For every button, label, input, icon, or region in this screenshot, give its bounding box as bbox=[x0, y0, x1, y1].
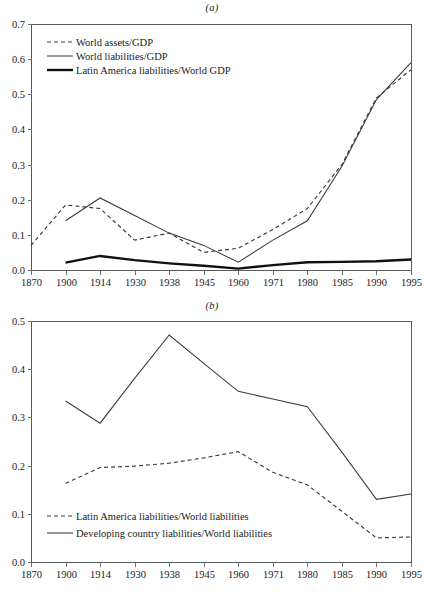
y-tick-label: 0.5 bbox=[12, 89, 25, 100]
chart-panel-a: (a) 0.00.10.20.30.40.50.60.7187019001914… bbox=[0, 0, 424, 298]
legend-label-1: World assets/GDP bbox=[76, 37, 153, 48]
x-tick-label: 1971 bbox=[263, 569, 284, 580]
x-tick-label: 1930 bbox=[125, 569, 146, 580]
series-line-2 bbox=[66, 63, 411, 263]
x-tick-label: 1995 bbox=[401, 277, 422, 288]
x-tick-label: 1914 bbox=[90, 569, 112, 580]
series-line-1 bbox=[31, 70, 411, 253]
x-tick-label: 1938 bbox=[159, 569, 180, 580]
x-tick-label: 1960 bbox=[228, 277, 249, 288]
x-tick-label: 1960 bbox=[228, 569, 249, 580]
chart-panel-b: (b) 0.00.10.20.30.40.5187019001914193019… bbox=[0, 298, 424, 597]
panel-b-plot: 0.00.10.20.30.40.51870190019141930193819… bbox=[0, 298, 424, 597]
y-tick-label: 0.0 bbox=[12, 557, 25, 568]
x-tick-label: 1870 bbox=[21, 277, 42, 288]
x-tick-label: 1900 bbox=[56, 569, 77, 580]
legend-label-2: World liabilities/GDP bbox=[76, 51, 168, 62]
series-line-2 bbox=[66, 335, 411, 499]
x-tick-label: 1914 bbox=[90, 277, 112, 288]
y-tick-label: 0.3 bbox=[12, 160, 25, 171]
x-tick-label: 1930 bbox=[125, 277, 146, 288]
x-tick-label: 1990 bbox=[366, 277, 387, 288]
x-tick-label: 1985 bbox=[332, 277, 353, 288]
y-tick-label: 0.7 bbox=[12, 19, 25, 30]
y-tick-label: 0.2 bbox=[12, 461, 25, 472]
x-tick-label: 1980 bbox=[297, 569, 318, 580]
panel-a-plot: 0.00.10.20.30.40.50.60.71870190019141930… bbox=[0, 0, 424, 298]
x-tick-label: 1945 bbox=[194, 569, 215, 580]
y-tick-label: 0.0 bbox=[12, 265, 25, 276]
x-tick-label: 1985 bbox=[332, 569, 353, 580]
y-tick-label: 0.1 bbox=[12, 230, 25, 241]
y-tick-label: 0.1 bbox=[12, 509, 25, 520]
series-line-1 bbox=[66, 452, 411, 538]
y-tick-label: 0.5 bbox=[12, 316, 25, 327]
y-tick-label: 0.4 bbox=[12, 124, 26, 135]
y-tick-label: 0.2 bbox=[12, 195, 25, 206]
x-tick-label: 1990 bbox=[366, 569, 387, 580]
legend-label-3: Latin America liabilities/World GDP bbox=[76, 65, 231, 76]
y-tick-label: 0.3 bbox=[12, 412, 25, 423]
y-tick-label: 0.4 bbox=[12, 364, 26, 375]
x-tick-label: 1971 bbox=[263, 277, 284, 288]
figure-container: (a) 0.00.10.20.30.40.50.60.7187019001914… bbox=[0, 0, 424, 597]
x-tick-label: 1938 bbox=[159, 277, 180, 288]
legend-label-2: Developing country liabilities/World lia… bbox=[76, 528, 272, 539]
x-tick-label: 1980 bbox=[297, 277, 318, 288]
legend-label-1: Latin America liabilities/World liabilit… bbox=[76, 511, 249, 522]
x-tick-label: 1900 bbox=[56, 277, 77, 288]
x-tick-label: 1870 bbox=[21, 569, 42, 580]
y-tick-label: 0.6 bbox=[12, 54, 25, 65]
x-tick-label: 1995 bbox=[401, 569, 422, 580]
x-tick-label: 1945 bbox=[194, 277, 215, 288]
